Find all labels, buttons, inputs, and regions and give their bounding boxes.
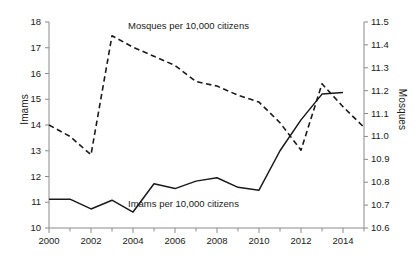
series-paths	[49, 36, 364, 212]
series-line-1	[49, 93, 343, 212]
chart-container: Imams Mosques 101112131415161718 10.610.…	[0, 0, 417, 260]
plot-area	[0, 0, 417, 260]
series-line-2	[49, 36, 364, 155]
axis-tick-marks	[45, 22, 368, 233]
